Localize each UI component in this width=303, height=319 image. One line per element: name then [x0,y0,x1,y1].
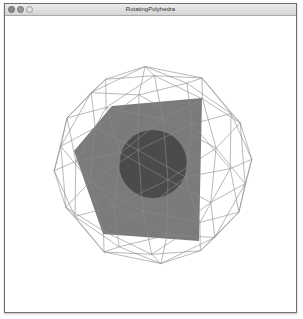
render-canvas[interactable] [5,16,296,312]
app-window: RotatingPolyhedra [4,3,297,313]
polyhedra-scene [5,16,298,314]
title-bar[interactable]: RotatingPolyhedra [5,4,296,16]
dark-sphere [119,130,187,198]
window-title: RotatingPolyhedra [5,5,296,14]
